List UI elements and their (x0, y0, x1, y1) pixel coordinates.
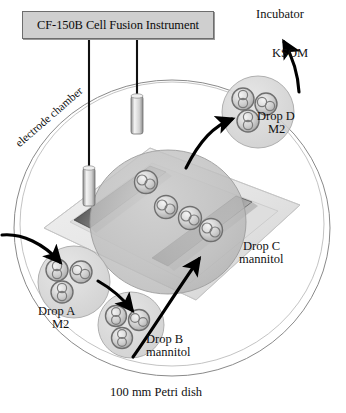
incubator-label: Incubator (256, 8, 304, 21)
instrument-title: CF-150B Cell Fusion Instrument (37, 18, 199, 33)
instrument-title-box: CF-150B Cell Fusion Instrument (22, 11, 214, 39)
ksom-label: KSOM (272, 47, 308, 60)
petri-dish-caption: 100 mm Petri dish (110, 386, 202, 399)
drop-d-label: Drop D (257, 110, 295, 123)
drop-d-medium: M2 (268, 123, 285, 136)
drop-c-medium: mannitol (239, 253, 283, 266)
drop-c-label: Drop C (243, 240, 280, 253)
drop-b-label: Drop B (146, 333, 183, 346)
figure-canvas: CF-150B Cell Fusion Instrument Incubator… (0, 0, 346, 413)
drop-b-medium: mannitol (146, 346, 190, 359)
drop-a-medium: M2 (52, 318, 69, 331)
drop-a-label: Drop A (38, 305, 75, 318)
drop-c-region (90, 150, 246, 294)
